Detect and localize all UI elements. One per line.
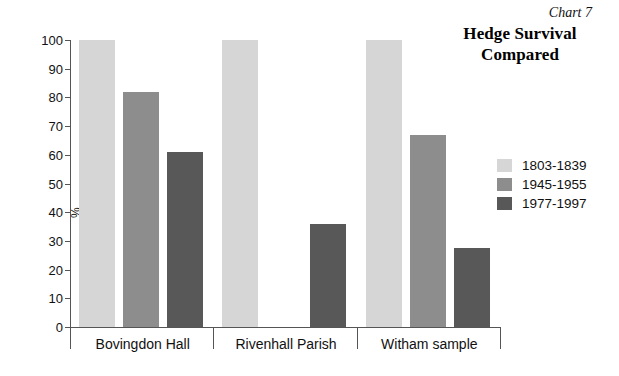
- legend-label: 1977-1997: [522, 197, 587, 211]
- legend-item[interactable]: 1803-1839: [497, 157, 617, 174]
- y-axis-tick-label: 20: [23, 264, 63, 277]
- y-axis-tick-label: 50: [23, 178, 63, 191]
- bar-1977-1997-Rivenhall Parish: [310, 224, 346, 327]
- legend-item[interactable]: 1945-1955: [497, 176, 617, 193]
- x-axis-category-label: Bovingdon Hall: [71, 336, 214, 352]
- x-axis-category-label: Rivenhall Parish: [214, 336, 357, 352]
- y-axis-tick-label: 80: [23, 91, 63, 104]
- x-axis-line: [70, 327, 501, 328]
- y-axis-tick: [65, 69, 71, 70]
- y-axis-tick-label: 40: [23, 206, 63, 219]
- legend-label: 1803-1839: [522, 159, 587, 173]
- y-axis-tick: [65, 241, 71, 242]
- x-axis-category-label: Witham sample: [358, 336, 501, 352]
- chart-container: Chart 7 Hedge Survival Compared 10090807…: [0, 0, 619, 376]
- legend-swatch-icon: [497, 197, 512, 210]
- y-axis-tick: [65, 126, 71, 127]
- y-axis-tick-label: 0: [23, 321, 63, 334]
- bar-1803-1839-Witham sample: [366, 40, 402, 327]
- y-axis-tick: [65, 155, 71, 156]
- y-axis-tick-label: 90: [23, 63, 63, 76]
- legend-label: 1945-1955: [522, 178, 587, 192]
- y-axis-tick: [65, 184, 71, 185]
- y-axis-tick-label: 10: [23, 292, 63, 305]
- y-axis-tick: [65, 270, 71, 271]
- legend: 1803-18391945-19551977-1997: [497, 157, 617, 214]
- y-axis-tick-label: 60: [23, 149, 63, 162]
- bar-1803-1839-Rivenhall Parish: [222, 40, 258, 327]
- bar-1945-1955-Witham sample: [410, 135, 446, 327]
- y-axis-tick: [65, 298, 71, 299]
- y-axis-labels: 1009080706050403020100: [17, 40, 63, 328]
- y-axis-tick-label: 100: [23, 34, 63, 47]
- bar-1803-1839-Bovingdon Hall: [79, 40, 115, 327]
- bar-1945-1955-Bovingdon Hall: [123, 92, 159, 327]
- chart-number-label: Chart 7: [430, 4, 610, 21]
- bar-1977-1997-Witham sample: [454, 248, 490, 327]
- legend-swatch-icon: [497, 178, 512, 191]
- bar-1977-1997-Bovingdon Hall: [167, 152, 203, 327]
- y-axis-tick: [65, 40, 71, 41]
- y-axis-tick-label: 30: [23, 235, 63, 248]
- y-axis-tick: [65, 97, 71, 98]
- plot-area: 1009080706050403020100 % Bovingdon HallR…: [71, 40, 501, 327]
- y-axis-tick-label: 70: [23, 120, 63, 133]
- legend-item[interactable]: 1977-1997: [497, 195, 617, 212]
- legend-swatch-icon: [497, 159, 512, 172]
